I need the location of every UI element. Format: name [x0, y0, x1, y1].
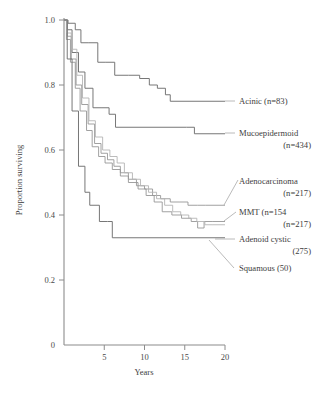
annotation-squamous: Squamous (50) — [239, 263, 291, 273]
y-axis-title: Proportion surviving — [14, 144, 24, 215]
x-tick-label-15: 15 — [181, 352, 190, 362]
leader-line-squamous — [209, 240, 234, 268]
x-tick-label-5: 5 — [102, 352, 106, 362]
leader-lines-group — [209, 101, 238, 268]
chart-svg: 1.0 0.8 0.6 0.4 0.2 0 5 10 15 20 Years P… — [0, 0, 319, 393]
annotation-mmt-line1: MMT (n=154 — [239, 207, 287, 217]
annotation-mucoepidermoid-line2: (n=434) — [283, 140, 311, 150]
axes-group — [64, 18, 225, 345]
x-tick-label-20: 20 — [221, 352, 230, 362]
annotation-mmt-line2: (n=217) — [283, 219, 311, 229]
y-tick-label-1.0: 1.0 — [44, 15, 55, 25]
x-axis-title: Years — [135, 367, 154, 377]
y-axis-ticks: 1.0 0.8 0.6 0.4 0.2 0 — [44, 15, 64, 350]
y-tick-label-0.8: 0.8 — [44, 80, 55, 90]
x-axis-ticks: 5 10 15 20 — [102, 345, 229, 362]
annotation-adenoid-cystic-line1: Adenoid cystic — [239, 234, 291, 244]
x-tick-label-10: 10 — [140, 352, 149, 362]
annotation-mucoepidermoid-line1: Mucoepidermoid — [239, 128, 299, 138]
y-tick-label-0: 0 — [51, 340, 55, 350]
y-tick-label-0.4: 0.4 — [44, 210, 55, 220]
y-tick-label-0.6: 0.6 — [44, 145, 55, 155]
curve-acinic — [64, 20, 225, 101]
annotation-adenoid-cystic-line2: (275) — [292, 246, 311, 256]
annotations-group: Acinic (n=83) Mucoepidermoid (n=434) Ade… — [239, 96, 311, 273]
annotation-adenocarcinoma-line2: (n=217) — [283, 188, 311, 198]
leader-line-adenocarcinoma — [224, 180, 238, 205]
y-tick-label-0.2: 0.2 — [44, 275, 55, 285]
curve-adenocarcinoma — [64, 20, 225, 205]
leader-line-mmt — [224, 212, 236, 221]
annotation-acinic: Acinic (n=83) — [239, 96, 288, 106]
annotation-adenocarcinoma-line1: Adenocarcinoma — [239, 176, 298, 186]
survival-curves-group — [64, 20, 225, 238]
kaplan-meier-survival-chart: 1.0 0.8 0.6 0.4 0.2 0 5 10 15 20 Years P… — [0, 0, 319, 393]
